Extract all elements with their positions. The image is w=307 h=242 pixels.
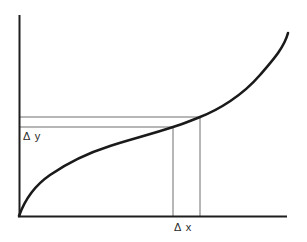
delta-y-label: Δ y xyxy=(23,131,41,142)
function-curve xyxy=(19,33,288,216)
delta-x-label: Δ x xyxy=(174,222,192,233)
diagram-canvas xyxy=(0,0,307,242)
